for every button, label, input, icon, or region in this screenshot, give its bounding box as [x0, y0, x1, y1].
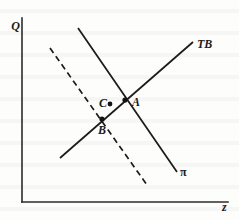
diagram-canvas — [0, 0, 239, 220]
pi-shifted-dashed-line — [50, 48, 147, 185]
point-a-label: A — [132, 96, 140, 108]
economics-diagram-figure: Q z TB π A B C — [0, 0, 239, 220]
y-axis-label: Q — [11, 20, 20, 32]
pi-curve-label: π — [180, 166, 187, 178]
point-c-marker — [108, 102, 113, 107]
point-c-label: C — [99, 97, 107, 109]
x-axis-label: z — [222, 201, 227, 213]
point-b-label: B — [98, 124, 106, 136]
tb-curve-label: TB — [197, 38, 212, 50]
point-a-marker — [122, 97, 127, 102]
point-b-marker — [99, 116, 104, 121]
